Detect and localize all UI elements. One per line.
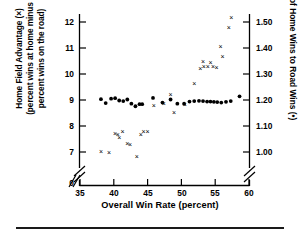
data-point-dot: [125, 98, 129, 102]
data-point-dot: [215, 100, 219, 104]
data-point-dot: [161, 101, 165, 105]
data-point-dot: [205, 100, 209, 104]
data-point-dot: [197, 99, 201, 103]
data-point-cross: ×: [117, 134, 121, 141]
data-point-dot: [99, 97, 103, 101]
data-point-dot: [169, 98, 173, 102]
data-point-dot: [188, 100, 192, 104]
data-point-cross: ×: [221, 53, 225, 60]
data-point-dot: [209, 100, 213, 104]
data-point-dot: [129, 102, 133, 106]
x-axis-ticks: [80, 179, 249, 186]
data-point-dot: [151, 96, 155, 100]
data-point-dot: [182, 102, 186, 106]
data-point-dot: [121, 99, 125, 103]
y-axis-left-ticks: [80, 22, 87, 152]
data-point-dot: [229, 99, 233, 103]
data-point-cross: ×: [219, 43, 223, 50]
y-axis-right-ticks: [243, 22, 250, 152]
data-point-dot: [192, 99, 196, 103]
plot-area: ×××××××××××××××××××××××××××××: [0, 0, 301, 234]
figure-container: Home Field Advantage (×) (percent wins a…: [0, 0, 301, 234]
data-point-dot: [238, 94, 242, 98]
data-point-dot: [212, 100, 216, 104]
data-point-cross: ×: [99, 148, 103, 155]
data-point-cross: ×: [121, 128, 125, 135]
data-point-cross: ×: [192, 80, 196, 87]
data-point-cross: ×: [107, 149, 111, 156]
data-point-cross: ×: [135, 153, 139, 160]
data-point-dot: [219, 101, 223, 105]
data-point-dot: [104, 101, 108, 105]
data-point-cross: ×: [172, 109, 176, 116]
data-point-dot: [140, 102, 144, 106]
data-point-dot: [117, 99, 121, 103]
data-point-cross: ×: [152, 102, 156, 109]
data-point-cross: ×: [215, 64, 219, 71]
data-point-dot: [134, 104, 138, 108]
data-point-dot: [201, 99, 205, 103]
data-point-dot: [224, 100, 228, 104]
bottom-rule: [16, 227, 284, 229]
data-point-cross: ×: [227, 24, 231, 31]
data-point-dot: [113, 96, 117, 100]
data-point-dot: [175, 102, 179, 106]
series-advantage-crosses: ×××××××××××××××××××××××××××××: [99, 14, 234, 160]
data-point-cross: ×: [146, 128, 150, 135]
data-point-cross: ×: [169, 91, 173, 98]
data-point-cross: ×: [229, 14, 233, 21]
data-point-cross: ×: [128, 141, 132, 148]
data-point-dot: [109, 97, 113, 101]
